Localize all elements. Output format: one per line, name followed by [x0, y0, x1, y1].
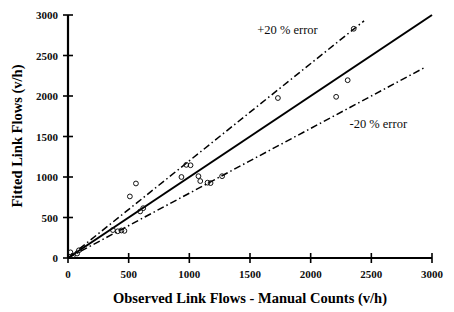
y-axis-title: Fitted Link Flows (v/h) [9, 64, 26, 207]
identity-fit-line [68, 15, 432, 258]
y-tick-label: 2500 [36, 50, 59, 62]
identity-fit-line [68, 15, 432, 258]
x-tick-label: 0 [65, 268, 71, 280]
minus-20-error [68, 68, 424, 258]
x-tick-label: 3000 [421, 268, 444, 280]
y-tick-label: 0 [53, 252, 59, 264]
y-tick-label: 500 [42, 212, 59, 224]
x-tick-label: 1500 [239, 268, 262, 280]
data-point [122, 228, 127, 233]
data-point [179, 175, 184, 180]
x-tick-label: 1000 [178, 268, 201, 280]
data-point [198, 179, 203, 184]
x-axis-title: Observed Link Flows - Manual Counts (v/h… [113, 290, 387, 307]
y-tick-label: 2000 [36, 90, 59, 102]
chart-figure: 050010001500200025003000 050010001500200… [0, 0, 454, 312]
x-tick-label: 2000 [300, 268, 323, 280]
annotations-group: +20 % error-20 % error [257, 23, 408, 131]
data-point [276, 96, 281, 101]
data-point [127, 194, 132, 199]
data-point [345, 78, 350, 83]
scatter-plot-canvas: 050010001500200025003000 050010001500200… [0, 0, 454, 312]
y-tick-label: 3000 [36, 9, 59, 21]
plus-20-error-label: +20 % error [257, 23, 318, 37]
y-tick-label: 1000 [36, 171, 59, 183]
x-tick-label: 2500 [360, 268, 383, 280]
x-tick-label: 500 [120, 268, 137, 280]
data-point [334, 94, 339, 99]
y-tick-label: 1500 [36, 131, 59, 143]
data-point [134, 181, 139, 186]
minus-20-error-label: -20 % error [349, 117, 407, 131]
data-point [196, 174, 201, 179]
plus-20-error [68, 21, 364, 258]
